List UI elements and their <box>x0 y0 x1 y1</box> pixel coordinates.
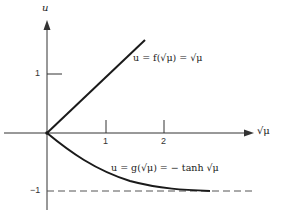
x-axis-label: √μ <box>257 125 270 136</box>
x-axis-arrow-icon <box>244 130 254 137</box>
phase-diagram <box>0 0 288 218</box>
y-axis-label: u <box>42 2 48 13</box>
y-tick-label-neg1: −1 <box>30 185 40 195</box>
x-tick-label-2: 2 <box>161 136 166 146</box>
origin-point <box>45 131 49 135</box>
y-axis-arrow-icon <box>44 20 51 30</box>
lower-curve-label: u = g(√μ) = − tanh √μ <box>111 162 219 173</box>
upper-curve <box>47 40 145 133</box>
y-tick-label-1: 1 <box>35 68 40 78</box>
upper-curve-label: u = f(√μ) = √μ <box>133 52 203 63</box>
x-tick-label-1: 1 <box>103 136 108 146</box>
